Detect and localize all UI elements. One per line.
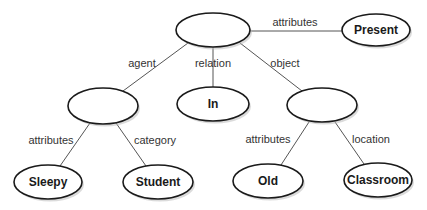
node-student: Student (123, 165, 195, 202)
edge-root-agentNode: agent (123, 43, 188, 91)
node-label: Present (354, 23, 398, 37)
node-sleepy: Sleepy (14, 165, 84, 202)
node-objectNode (287, 88, 359, 125)
node-ellipse (176, 13, 250, 47)
node-agentNode (68, 88, 140, 127)
node-ellipse (287, 88, 357, 122)
edge-root-objectNode: object (240, 43, 302, 91)
node-label: Sleepy (29, 175, 68, 189)
node-in: In (177, 87, 251, 124)
node-label: In (208, 97, 219, 111)
node-label: Old (258, 174, 278, 188)
edge-label: attributes (245, 133, 291, 145)
edge-root-in: relation (195, 47, 231, 87)
edge-agentNode-student: category (116, 123, 177, 166)
edge-label: object (270, 57, 299, 69)
edge-objectNode-old: attributes (245, 122, 309, 165)
node-ellipse (68, 88, 138, 124)
edge-label: agent (128, 57, 156, 69)
nodes-layer: PresentInSleepyStudentOldClassroom (14, 13, 414, 202)
edge-label: attributes (272, 16, 318, 28)
node-label: Student (136, 175, 181, 189)
edge-root-present: attributes (250, 16, 342, 31)
node-present: Present (342, 14, 412, 49)
edge-label: category (134, 134, 177, 146)
edge-objectNode-classroom: location (335, 122, 390, 164)
edge-label: relation (195, 57, 231, 69)
edge-agentNode-sleepy: attributes (28, 123, 90, 166)
node-classroom: Classroom (344, 163, 414, 200)
edge-label: attributes (28, 134, 74, 146)
node-old: Old (233, 164, 305, 201)
edge-label: location (352, 133, 390, 145)
semantic-network-diagram: attributesagentrelationobjectattributesc… (0, 0, 427, 210)
node-label: Classroom (347, 173, 409, 187)
